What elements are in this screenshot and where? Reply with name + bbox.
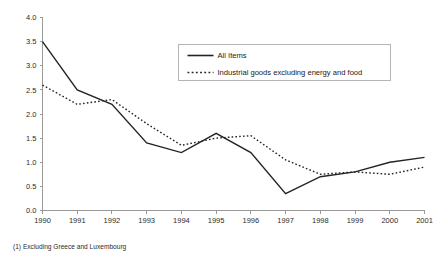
- y-tick-label: 1.0: [26, 158, 36, 167]
- legend-label: All Items: [218, 51, 247, 60]
- x-tick-label: 1999: [347, 216, 364, 225]
- y-tick-label: 3.0: [26, 61, 36, 70]
- y-tick-label: 0.5: [26, 182, 36, 191]
- chart-svg: 0.00.51.01.52.02.53.03.54.0 199019911992…: [0, 0, 435, 261]
- x-tick-label: 1991: [69, 216, 86, 225]
- line-chart: 0.00.51.01.52.02.53.03.54.0 199019911992…: [0, 0, 435, 261]
- y-tick-label: 3.5: [26, 37, 36, 46]
- y-tick-label: 4.0: [26, 13, 36, 22]
- y-tick-label: 0.0: [26, 206, 36, 215]
- legend-label: Industrial goods excluding energy and fo…: [218, 68, 363, 77]
- x-tick-label: 1997: [277, 216, 294, 225]
- x-tick-label: 2000: [381, 216, 398, 225]
- x-tick-label: 1993: [138, 216, 155, 225]
- x-tick-label: 1998: [312, 216, 329, 225]
- x-tick-label: 1996: [243, 216, 260, 225]
- y-tick-label: 2.0: [26, 110, 36, 119]
- x-tick-label: 2001: [416, 216, 433, 225]
- series-line: [43, 85, 425, 174]
- chart-legend: All ItemsIndustrial goods excluding ener…: [179, 45, 391, 81]
- x-axis: 1990199119921993199419951996199719981999…: [34, 211, 433, 226]
- chart-footnote: (1) Excluding Greece and Luxembourg: [13, 243, 126, 250]
- y-tick-label: 2.5: [26, 86, 36, 95]
- x-tick-label: 1995: [208, 216, 225, 225]
- y-tick-label: 1.5: [26, 134, 36, 143]
- y-axis: 0.00.51.01.52.02.53.03.54.0: [26, 13, 42, 215]
- x-tick-label: 1990: [34, 216, 51, 225]
- x-tick-label: 1994: [173, 216, 190, 225]
- x-tick-label: 1992: [104, 216, 121, 225]
